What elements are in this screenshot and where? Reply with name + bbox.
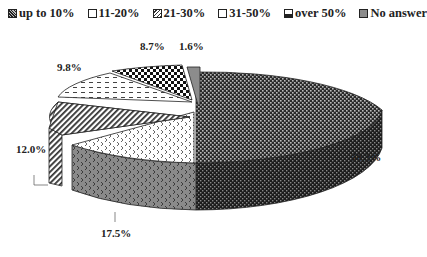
label-no-answer: 1.6% — [179, 40, 204, 52]
label-21-30: 12.0% — [16, 143, 46, 155]
legend: up to 10% 11-20% 21-30% 31-50% over 50% … — [8, 6, 427, 21]
legend-item-31-50: 31-50% — [218, 6, 271, 21]
slice-side-21-30 — [49, 128, 62, 186]
dash-swatch-icon — [218, 9, 227, 18]
hatch-swatch-icon — [153, 9, 162, 18]
legend-item-over-50: over 50% — [284, 6, 347, 21]
dots-swatch-icon — [8, 9, 17, 18]
chevron-swatch-icon — [88, 9, 97, 18]
checker-swatch-icon — [284, 9, 293, 18]
label-11-20: 17.5% — [101, 227, 131, 239]
legend-item-21-30: 21-30% — [153, 6, 206, 21]
gray-swatch-icon — [359, 9, 368, 18]
legend-item-no-answer: No answer — [359, 6, 427, 21]
label-31-50: 9.8% — [57, 61, 82, 73]
legend-item-up-to-10: up to 10% — [8, 6, 75, 21]
label-over-50: 8.7% — [140, 40, 165, 52]
label-up-to-10: 50.3% — [351, 151, 381, 163]
legend-item-11-20: 11-20% — [88, 6, 140, 21]
